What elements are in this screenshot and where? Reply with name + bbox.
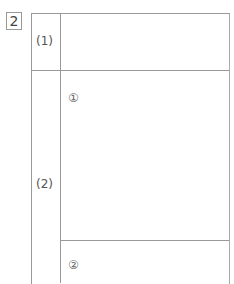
answer-cell-2-1[interactable] <box>61 71 228 240</box>
subitem-marker-1: ① <box>68 91 79 105</box>
answer-cell-1[interactable] <box>61 14 228 70</box>
row-label-1: (1) <box>36 34 53 48</box>
subitem-marker-2: ② <box>68 258 79 272</box>
question-number-box: 2 <box>6 12 22 30</box>
row-label-2: (2) <box>36 177 53 191</box>
answer-cell-2-2[interactable] <box>61 241 228 276</box>
